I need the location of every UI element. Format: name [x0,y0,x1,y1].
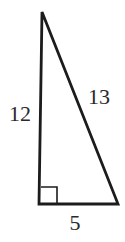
right-triangle-figure: 12 13 5 [0,0,125,242]
diagram-canvas: 12 13 5 [0,0,125,242]
bottom-side-label: 5 [70,210,81,235]
hypotenuse-label: 13 [88,84,110,109]
left-side-label: 12 [9,101,31,126]
right-angle-marker [41,187,57,203]
